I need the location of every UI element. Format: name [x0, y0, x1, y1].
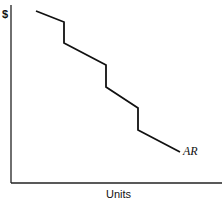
chart-canvas: [0, 0, 222, 203]
x-axis-label: Units: [106, 188, 131, 200]
ar-curve: [36, 11, 180, 152]
y-axis-label: $: [2, 8, 8, 20]
curve-label: AR: [183, 144, 198, 159]
